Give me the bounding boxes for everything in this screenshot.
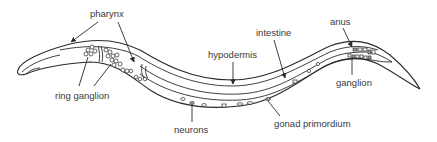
- ring-ganglion-line-2: [94, 64, 111, 86]
- worm-anatomy-diagram: pharynx ring ganglion hypodermis intesti…: [0, 0, 437, 142]
- intestine-arrow: [274, 40, 285, 78]
- anus-arrow: [343, 28, 352, 47]
- ring-ganglion-line-1: [79, 57, 88, 86]
- nerve-ring: [98, 46, 103, 62]
- labels: pharynx ring ganglion hypodermis intesti…: [55, 8, 372, 135]
- label-neurons: neurons: [174, 124, 209, 135]
- label-ganglion: ganglion: [336, 77, 372, 88]
- label-gonad-primordium: gonad primordium: [274, 118, 351, 129]
- pharynx-nuclei: [84, 45, 148, 81]
- pharynx-arrow-1: [71, 22, 98, 42]
- label-intestine: intestine: [256, 27, 291, 38]
- gonad-primordium-line: [268, 101, 280, 116]
- label-pharynx: pharynx: [90, 8, 124, 19]
- diagram-canvas: pharynx ring ganglion hypodermis intesti…: [0, 0, 437, 142]
- label-anus: anus: [330, 16, 351, 27]
- label-hypodermis: hypodermis: [208, 49, 257, 60]
- label-ring-ganglion: ring ganglion: [55, 90, 109, 101]
- pharynx-arrow-2: [118, 22, 134, 62]
